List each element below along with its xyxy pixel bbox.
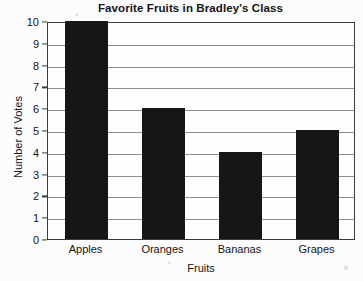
y-tick-label: 6	[33, 103, 39, 115]
scan-speck	[168, 261, 171, 264]
y-tick-label: 8	[33, 60, 39, 72]
y-tick-label: 7	[33, 81, 39, 93]
x-tick-label: Grapes	[298, 243, 334, 255]
bar	[65, 21, 108, 239]
y-tick-label: 10	[27, 16, 39, 28]
chart-page: Favorite Fruits in Bradley's Class 10987…	[0, 0, 363, 281]
bar	[296, 130, 339, 239]
y-axis-label: Number of Votes	[12, 67, 24, 207]
x-tick-label: Bananas	[218, 243, 261, 255]
x-tick-label: Oranges	[141, 243, 183, 255]
bar	[219, 152, 262, 239]
bars-layer	[48, 23, 354, 239]
y-tick-label: 0	[33, 234, 39, 246]
bar	[142, 108, 185, 239]
x-axis-label: Fruits	[47, 262, 355, 274]
scan-speck	[344, 265, 348, 270]
chart-title: Favorite Fruits in Bradley's Class	[0, 2, 363, 14]
plot-area	[47, 22, 355, 240]
y-tick-label: 9	[33, 38, 39, 50]
y-tick-label: 4	[33, 147, 39, 159]
y-tick-label: 3	[33, 169, 39, 181]
x-tick-label: Apples	[69, 243, 103, 255]
y-tick-label: 2	[33, 190, 39, 202]
y-tick-label: 5	[33, 125, 39, 137]
y-tick-label: 1	[33, 212, 39, 224]
scan-speck	[75, 13, 78, 16]
